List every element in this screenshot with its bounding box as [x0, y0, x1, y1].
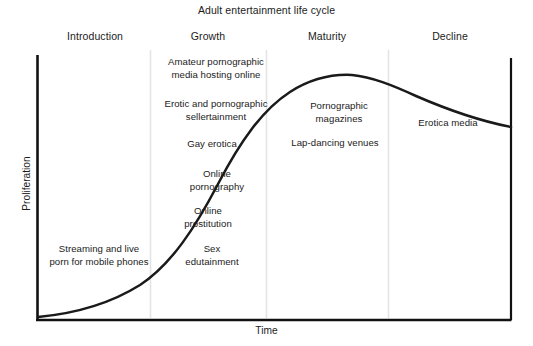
annotation-gay-erotica: Gay erotica [152, 138, 272, 151]
life-cycle-chart-figure: Adult entertainment life cycle Introduct… [0, 0, 533, 346]
annotation-line: Amateur pornographic [148, 56, 284, 69]
annotation-line: Gay erotica [152, 138, 272, 151]
annotation-lap-dancing-venues: Lap-dancing venues [277, 137, 393, 150]
annotation-erotic-and-pornographic-sellertainment: Erotic and pornographic sellertainment [144, 98, 288, 123]
annotation-line: Lap-dancing venues [277, 137, 393, 150]
annotation-line: prostitution [152, 218, 264, 231]
y-axis-title: Proliferation [21, 124, 32, 244]
annotation-erotica-media: Erotica media [398, 117, 498, 130]
x-axis-title: Time [0, 325, 533, 336]
annotation-streaming-and-live-porn: Streaming and live porn for mobile phone… [40, 243, 158, 268]
annotation-line: magazines [288, 113, 390, 126]
annotation-line: media hosting online [148, 69, 284, 82]
annotation-online-prostitution: Online prostitution [152, 205, 264, 230]
annotation-line: porn for mobile phones [40, 256, 158, 269]
annotation-sex-edutainment: Sex edutainment [156, 243, 268, 268]
annotation-line: Sex [156, 243, 268, 256]
annotation-line: Erotica media [398, 117, 498, 130]
annotation-line: Streaming and live [40, 243, 158, 256]
annotation-line: Pornographic [288, 100, 390, 113]
annotation-online-pornography: Online pornography [158, 168, 276, 193]
annotation-line: Erotic and pornographic [144, 98, 288, 111]
annotation-line: Online [152, 205, 264, 218]
annotation-line: pornography [158, 181, 276, 194]
annotation-amateur-pornographic-media: Amateur pornographic media hosting onlin… [148, 56, 284, 81]
annotation-line: Online [158, 168, 276, 181]
annotation-pornographic-magazines: Pornographic magazines [288, 100, 390, 125]
annotation-line: edutainment [156, 256, 268, 269]
annotation-line: sellertainment [144, 111, 288, 124]
